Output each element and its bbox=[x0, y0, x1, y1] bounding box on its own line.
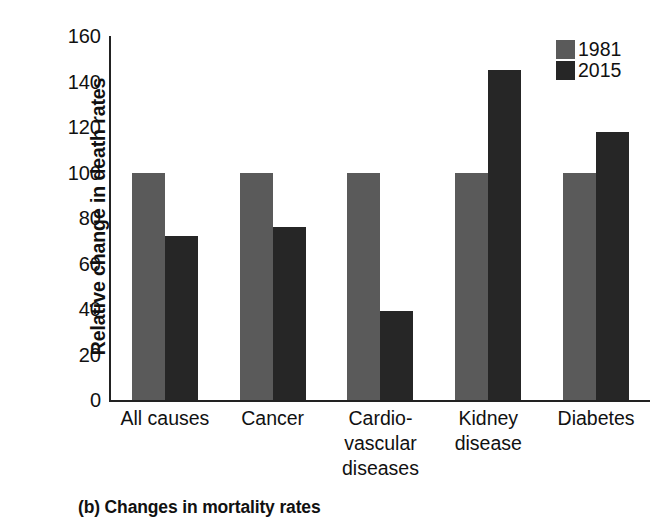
legend-label: 1981 bbox=[578, 40, 621, 59]
mortality-rates-bar-chart: Relative change in death rates 020406080… bbox=[0, 0, 662, 528]
y-axis-tick-label: 40 bbox=[45, 298, 101, 321]
bar-group bbox=[111, 36, 219, 400]
bar-group bbox=[219, 36, 327, 400]
y-axis-tick-label: 120 bbox=[45, 116, 101, 139]
bar-1981 bbox=[455, 173, 488, 401]
legend-item-1981: 1981 bbox=[556, 40, 621, 59]
bar-group bbox=[542, 36, 650, 400]
x-axis-category-label: Diabetes bbox=[542, 406, 650, 481]
x-axis-category-labels: All causesCancerCardio- vascular disease… bbox=[111, 406, 650, 481]
y-axis-tick-label: 60 bbox=[45, 252, 101, 275]
y-axis-tick-label: 20 bbox=[45, 343, 101, 366]
bar-1981 bbox=[240, 173, 273, 401]
bar-2015 bbox=[488, 70, 521, 400]
legend-swatch-icon bbox=[556, 40, 575, 59]
legend-item-2015: 2015 bbox=[556, 61, 621, 80]
bar-groups bbox=[111, 36, 650, 400]
bar-2015 bbox=[380, 311, 413, 400]
y-axis-tick-label: 140 bbox=[45, 70, 101, 93]
bar-1981 bbox=[347, 173, 380, 401]
x-axis-category-label: Kidney disease bbox=[434, 406, 542, 481]
bar-group bbox=[327, 36, 435, 400]
legend-swatch-icon bbox=[556, 61, 575, 80]
y-axis-tick-label: 0 bbox=[45, 389, 101, 412]
bar-2015 bbox=[596, 132, 629, 400]
legend-label: 2015 bbox=[578, 61, 621, 80]
y-axis-tick-label: 160 bbox=[45, 25, 101, 48]
x-axis-line bbox=[109, 400, 650, 402]
plot-area: 020406080100120140160 bbox=[109, 36, 650, 400]
legend: 19812015 bbox=[556, 40, 621, 80]
x-axis-category-label: All causes bbox=[111, 406, 219, 481]
bar-group bbox=[434, 36, 542, 400]
x-axis-category-label: Cancer bbox=[219, 406, 327, 481]
bar-1981 bbox=[132, 173, 165, 401]
y-axis-tick-label: 80 bbox=[45, 207, 101, 230]
figure-caption: (b) Changes in mortality rates bbox=[78, 497, 321, 518]
bar-2015 bbox=[165, 236, 198, 400]
y-axis-tick-label: 100 bbox=[45, 161, 101, 184]
bar-2015 bbox=[273, 227, 306, 400]
bar-1981 bbox=[563, 173, 596, 401]
x-axis-category-label: Cardio- vascular diseases bbox=[327, 406, 435, 481]
